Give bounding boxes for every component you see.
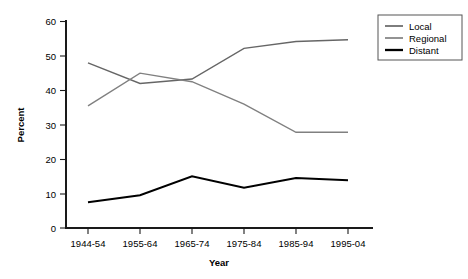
- chart-legend: Local Regional Distant: [378, 15, 462, 60]
- legend-label-distant: Distant: [409, 45, 439, 56]
- x-axis-title: Year: [209, 257, 229, 268]
- y-tick-label: 20: [45, 154, 56, 165]
- y-tick-label: 40: [45, 85, 56, 96]
- x-tick-label: 1975-84: [227, 238, 262, 249]
- legend-label-regional: Regional: [409, 33, 447, 44]
- y-tick-label: 60: [45, 16, 56, 27]
- series-line-regional: [88, 73, 348, 132]
- legend-label-local: Local: [409, 21, 432, 32]
- y-tick-label: 10: [45, 189, 56, 200]
- y-axis-title: Percent: [15, 107, 26, 143]
- series-line-distant: [88, 176, 348, 202]
- chart-figure: 60 50 40 30 20 10 0 1944-54 1955-64 1965…: [0, 0, 468, 279]
- line-chart: 60 50 40 30 20 10 0 1944-54 1955-64 1965…: [0, 0, 468, 279]
- y-tick-label: 50: [45, 51, 56, 62]
- x-tick-labels: 1944-54 1955-64 1965-74 1975-84 1985-94 …: [71, 238, 366, 249]
- series-line-local: [88, 40, 348, 84]
- x-tick-label: 1985-94: [279, 238, 314, 249]
- series-group: [88, 40, 348, 202]
- x-tick-label: 1965-74: [175, 238, 210, 249]
- x-tick-label: 1955-64: [123, 238, 158, 249]
- y-tick-label: 30: [45, 120, 56, 131]
- x-tick-label: 1995-04: [331, 238, 366, 249]
- x-tick-label: 1944-54: [71, 238, 106, 249]
- y-tick-labels: 60 50 40 30 20 10 0: [45, 16, 56, 234]
- y-tick-label: 0: [51, 223, 56, 234]
